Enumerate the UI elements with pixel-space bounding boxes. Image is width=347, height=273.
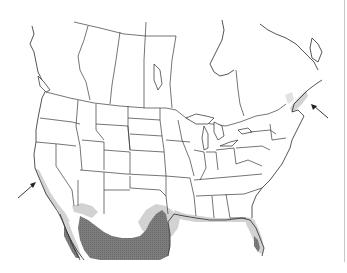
range-coastal-california <box>35 168 70 222</box>
alberta-sask-border <box>110 32 120 104</box>
dakotas-west <box>128 106 130 150</box>
indiana-border <box>206 152 218 170</box>
pacific-coast <box>30 26 84 260</box>
labrador-coast <box>260 24 318 70</box>
arrow-california <box>18 182 36 198</box>
gulf-coast-line <box>168 214 264 256</box>
utah-borders <box>82 140 104 170</box>
ontario-manitoba-border <box>170 36 176 108</box>
bc-alberta-border <box>78 26 90 100</box>
lake-ontario <box>238 128 252 134</box>
sask-manitoba-border <box>144 22 146 108</box>
lake-huron <box>214 122 224 140</box>
map-svg <box>0 0 347 273</box>
vancouver-island <box>38 76 50 92</box>
arrow-nova-scotia <box>311 104 328 118</box>
range-southern-arizona <box>72 203 98 218</box>
newfoundland <box>310 38 322 62</box>
ne-ks-border <box>130 150 164 152</box>
wyoming-border <box>96 124 130 150</box>
ok-tx-border <box>130 176 166 196</box>
range-map <box>0 0 347 273</box>
ny-border <box>250 130 276 134</box>
lake-erie <box>220 140 238 146</box>
range-new-brunswick-fringe <box>285 92 294 104</box>
az-ut-nm-co-line <box>80 170 126 174</box>
us-state-borders <box>36 100 286 218</box>
range-florida <box>246 218 264 254</box>
islands <box>38 38 322 92</box>
lake-michigan <box>202 126 208 150</box>
ms-al-border <box>212 196 214 218</box>
sd-ne-border <box>130 134 162 136</box>
peripheral-range-layer <box>35 90 308 258</box>
lake-superior <box>186 114 214 124</box>
lake-winnipeg <box>154 64 162 90</box>
montana-wyoming <box>96 104 104 140</box>
ks-ok-border <box>126 174 166 176</box>
va-wv-border <box>236 160 262 166</box>
pa-border <box>236 146 270 150</box>
nd-sd-border <box>128 118 160 120</box>
hudson-bay-coast <box>210 20 234 76</box>
al-ga-border <box>226 194 230 218</box>
southern-line <box>196 188 262 196</box>
ontario-quebec-border <box>236 70 244 116</box>
northern-boundary <box>74 22 176 36</box>
core-range-layer <box>64 210 260 260</box>
ohio-border <box>216 148 236 164</box>
colorado-border <box>104 150 130 174</box>
illinois-border <box>194 150 206 180</box>
ca-nv-border <box>56 144 74 206</box>
great-lakes <box>154 64 252 150</box>
tn-ky-nc-line <box>194 174 262 180</box>
idaho-west-border <box>76 100 82 170</box>
ia-mo-border <box>166 140 190 142</box>
or-wa-border <box>40 118 80 124</box>
us-canada-border <box>46 92 286 126</box>
canada-borders <box>46 22 286 126</box>
upper-mississippi <box>178 120 194 176</box>
